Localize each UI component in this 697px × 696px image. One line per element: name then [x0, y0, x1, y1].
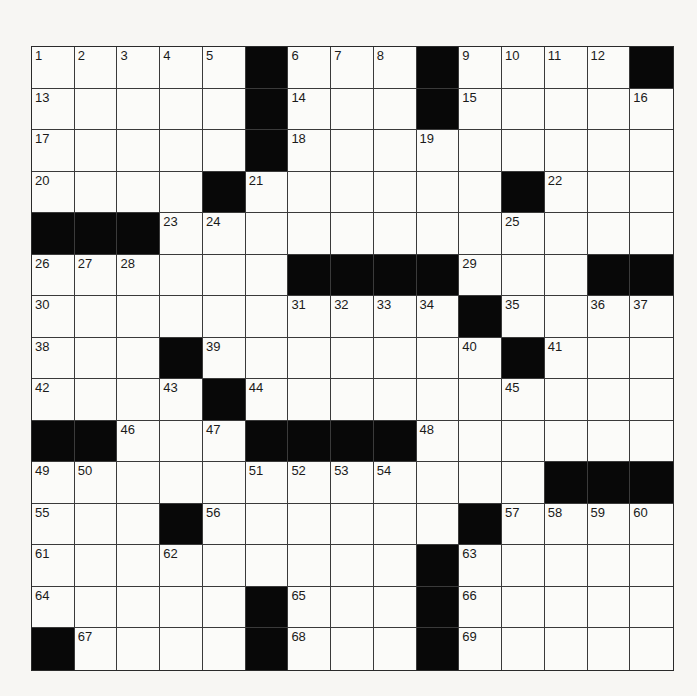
grid-cell[interactable]: 20	[32, 172, 75, 214]
grid-cell[interactable]	[588, 545, 631, 587]
grid-cell[interactable]: 10	[502, 47, 545, 89]
grid-cell[interactable]: 27	[75, 255, 118, 297]
grid-cell[interactable]: 61	[32, 545, 75, 587]
grid-cell[interactable]	[545, 545, 588, 587]
grid-cell[interactable]	[588, 421, 631, 463]
grid-cell[interactable]: 2	[75, 47, 118, 89]
grid-cell[interactable]	[630, 587, 673, 629]
grid-cell[interactable]: 63	[459, 545, 502, 587]
grid-cell[interactable]	[459, 379, 502, 421]
grid-cell[interactable]	[588, 89, 631, 131]
grid-cell[interactable]: 60	[630, 504, 673, 546]
grid-cell[interactable]	[160, 89, 203, 131]
grid-cell[interactable]	[374, 587, 417, 629]
grid-cell[interactable]	[160, 628, 203, 670]
grid-cell[interactable]	[117, 172, 160, 214]
grid-cell[interactable]: 46	[117, 421, 160, 463]
grid-cell[interactable]: 1	[32, 47, 75, 89]
grid-cell[interactable]: 65	[288, 587, 331, 629]
grid-cell[interactable]	[502, 130, 545, 172]
grid-cell[interactable]: 64	[32, 587, 75, 629]
grid-cell[interactable]	[75, 296, 118, 338]
grid-cell[interactable]: 57	[502, 504, 545, 546]
grid-cell[interactable]	[203, 296, 246, 338]
grid-cell[interactable]	[417, 462, 460, 504]
grid-cell[interactable]	[374, 172, 417, 214]
grid-cell[interactable]: 23	[160, 213, 203, 255]
grid-cell[interactable]	[630, 628, 673, 670]
grid-cell[interactable]: 17	[32, 130, 75, 172]
grid-cell[interactable]	[203, 545, 246, 587]
grid-cell[interactable]	[588, 172, 631, 214]
grid-cell[interactable]: 54	[374, 462, 417, 504]
grid-cell[interactable]: 59	[588, 504, 631, 546]
grid-cell[interactable]: 19	[417, 130, 460, 172]
grid-cell[interactable]	[160, 421, 203, 463]
grid-cell[interactable]	[160, 462, 203, 504]
grid-cell[interactable]	[75, 338, 118, 380]
grid-cell[interactable]	[588, 587, 631, 629]
grid-cell[interactable]	[374, 628, 417, 670]
grid-cell[interactable]: 52	[288, 462, 331, 504]
grid-cell[interactable]: 62	[160, 545, 203, 587]
grid-cell[interactable]	[75, 379, 118, 421]
grid-cell[interactable]: 31	[288, 296, 331, 338]
grid-cell[interactable]	[459, 130, 502, 172]
grid-cell[interactable]	[75, 130, 118, 172]
grid-cell[interactable]	[545, 421, 588, 463]
grid-cell[interactable]	[246, 338, 289, 380]
grid-cell[interactable]: 48	[417, 421, 460, 463]
grid-cell[interactable]: 21	[246, 172, 289, 214]
grid-cell[interactable]: 41	[545, 338, 588, 380]
grid-cell[interactable]	[545, 379, 588, 421]
grid-cell[interactable]	[246, 255, 289, 297]
grid-cell[interactable]	[630, 130, 673, 172]
grid-cell[interactable]	[630, 338, 673, 380]
grid-cell[interactable]	[588, 628, 631, 670]
grid-cell[interactable]: 36	[588, 296, 631, 338]
grid-cell[interactable]: 45	[502, 379, 545, 421]
grid-cell[interactable]	[117, 338, 160, 380]
grid-cell[interactable]	[374, 504, 417, 546]
grid-cell[interactable]: 9	[459, 47, 502, 89]
grid-cell[interactable]: 67	[75, 628, 118, 670]
grid-cell[interactable]	[331, 379, 374, 421]
grid-cell[interactable]: 18	[288, 130, 331, 172]
grid-cell[interactable]	[331, 338, 374, 380]
grid-cell[interactable]	[117, 296, 160, 338]
grid-cell[interactable]	[630, 172, 673, 214]
grid-cell[interactable]	[75, 587, 118, 629]
grid-cell[interactable]	[545, 89, 588, 131]
grid-cell[interactable]	[288, 379, 331, 421]
grid-cell[interactable]	[502, 421, 545, 463]
grid-cell[interactable]: 22	[545, 172, 588, 214]
grid-cell[interactable]: 24	[203, 213, 246, 255]
grid-cell[interactable]	[288, 338, 331, 380]
grid-cell[interactable]	[160, 587, 203, 629]
grid-cell[interactable]: 13	[32, 89, 75, 131]
grid-cell[interactable]	[630, 421, 673, 463]
grid-cell[interactable]: 55	[32, 504, 75, 546]
grid-cell[interactable]	[374, 89, 417, 131]
grid-cell[interactable]: 15	[459, 89, 502, 131]
grid-cell[interactable]	[545, 130, 588, 172]
grid-cell[interactable]: 29	[459, 255, 502, 297]
grid-cell[interactable]	[288, 545, 331, 587]
grid-cell[interactable]: 32	[331, 296, 374, 338]
grid-cell[interactable]	[630, 379, 673, 421]
grid-cell[interactable]: 56	[203, 504, 246, 546]
grid-cell[interactable]: 8	[374, 47, 417, 89]
grid-cell[interactable]	[331, 172, 374, 214]
grid-cell[interactable]	[75, 545, 118, 587]
grid-cell[interactable]	[117, 504, 160, 546]
grid-cell[interactable]: 39	[203, 338, 246, 380]
grid-cell[interactable]: 53	[331, 462, 374, 504]
grid-cell[interactable]	[246, 504, 289, 546]
grid-cell[interactable]: 34	[417, 296, 460, 338]
grid-cell[interactable]	[459, 421, 502, 463]
grid-cell[interactable]: 12	[588, 47, 631, 89]
grid-cell[interactable]	[545, 628, 588, 670]
grid-cell[interactable]	[545, 213, 588, 255]
grid-cell[interactable]: 11	[545, 47, 588, 89]
grid-cell[interactable]	[374, 545, 417, 587]
